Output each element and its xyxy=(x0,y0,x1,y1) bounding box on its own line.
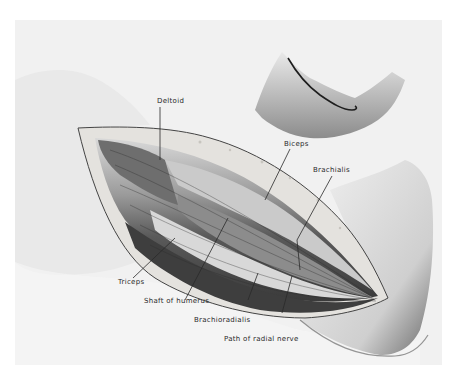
label-brachialis: Brachialis xyxy=(313,166,350,174)
label-shaft-of-humerus: Shaft of humerus xyxy=(144,297,209,305)
label-brachioradialis: Brachioradialis xyxy=(194,316,250,324)
label-path-of-radial-nerve: Path of radial nerve xyxy=(224,335,299,343)
label-biceps: Biceps xyxy=(284,140,309,148)
inset-arm-diagram xyxy=(255,52,405,138)
label-triceps: Triceps xyxy=(118,278,144,286)
label-deltoid: Deltoid xyxy=(157,97,184,105)
